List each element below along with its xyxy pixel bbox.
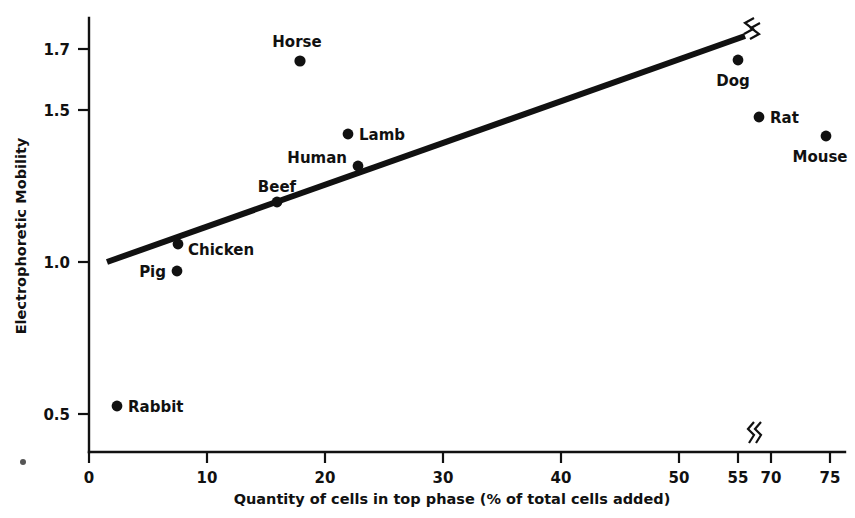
x-tick-group-40: 40 [551,452,572,487]
y-tick-label: 1.7 [43,41,70,59]
point-label: Horse [272,33,321,51]
point-label: Human [287,149,347,167]
x-tick-group-0: 0 [84,452,94,487]
x-axis: 0 10 20 30 40 50 [84,422,845,507]
point-marker[interactable] [343,129,354,140]
y-tick-group-3: 1.0 [43,254,89,272]
point-label: Rat [770,109,799,127]
y-tick-group-4: 0.5 [43,406,89,424]
trend-line-break-icon [744,18,760,39]
point-label: Beef [258,178,297,196]
y-axis-title: Electrophoretic Mobility [13,137,29,334]
x-tick-group-10: 10 [197,452,218,487]
point-marker[interactable] [754,112,765,123]
scan-artifact-speck [20,459,26,465]
y-tick-group-1: 1.7 [43,41,89,59]
trend-line [107,36,745,262]
x-tick-label: 10 [197,469,218,487]
x-tick-label: 0 [84,469,94,487]
data-point-mouse[interactable]: Mouse [792,131,847,166]
x-tick-label: 30 [433,469,454,487]
data-point-rat[interactable]: Rat [754,109,799,127]
y-tick-label: 1.0 [43,254,70,272]
trend-line-group [107,18,760,262]
y-tick-group-2: 1.5 [43,102,89,120]
x-tick-group-50: 50 [669,452,690,487]
x-tick-label: 55 [728,469,749,487]
point-label: Pig [139,263,166,281]
data-point-rabbit[interactable]: Rabbit [112,398,184,416]
point-marker[interactable] [173,239,184,250]
data-points: Rabbit Pig Chicken Beef Horse Lamb [112,33,848,416]
point-marker[interactable] [733,55,744,66]
point-marker[interactable] [272,197,283,208]
x-tick-group-20: 20 [315,452,336,487]
point-label: Rabbit [128,398,183,416]
point-label: Chicken [188,241,254,259]
x-tick-group-70: 70 [761,452,782,487]
data-point-dog[interactable]: Dog [716,55,750,90]
point-marker[interactable] [112,401,123,412]
data-point-pig[interactable]: Pig [139,263,182,281]
x-tick-group-75: 75 [820,452,841,487]
y-axis: 1.7 1.5 1.0 0.5 Electrophoretic Mobility [13,18,89,452]
data-point-beef[interactable]: Beef [258,178,297,207]
point-marker[interactable] [821,131,832,142]
x-tick-label: 40 [551,469,572,487]
x-tick-label: 50 [669,469,690,487]
point-marker[interactable] [353,161,364,172]
x-tick-label: 20 [315,469,336,487]
y-tick-label: 1.5 [43,102,70,120]
y-tick-label: 0.5 [43,406,70,424]
chart-svg: 1.7 1.5 1.0 0.5 Electrophoretic Mobility… [0,0,855,518]
data-point-human[interactable]: Human [287,149,363,171]
x-tick-group-30: 30 [433,452,454,487]
point-label: Mouse [792,148,847,166]
x-axis-title: Quantity of cells in top phase (% of tot… [234,491,671,507]
x-tick-label: 75 [820,469,841,487]
x-axis-break-icon [748,422,761,443]
data-point-lamb[interactable]: Lamb [343,126,406,144]
x-tick-group-55: 55 [728,452,749,487]
point-label: Lamb [359,126,405,144]
point-marker[interactable] [172,266,183,277]
x-tick-label: 70 [761,469,782,487]
point-label: Dog [716,72,750,90]
scatter-chart-figure: 1.7 1.5 1.0 0.5 Electrophoretic Mobility… [0,0,855,518]
point-marker[interactable] [294,55,305,66]
data-point-horse[interactable]: Horse [272,33,321,67]
data-point-chicken[interactable]: Chicken [173,239,255,259]
